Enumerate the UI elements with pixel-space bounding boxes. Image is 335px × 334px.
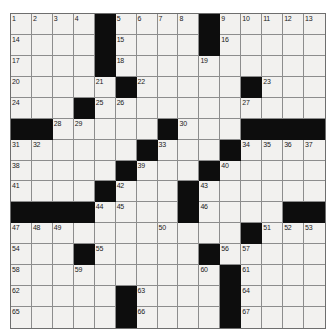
letter-cell[interactable] [95, 161, 116, 182]
letter-cell[interactable] [304, 98, 325, 119]
letter-cell[interactable] [158, 161, 179, 182]
letter-cell[interactable]: 45 [116, 202, 137, 223]
letter-cell[interactable] [262, 286, 283, 307]
letter-cell[interactable] [178, 307, 199, 328]
letter-cell[interactable] [262, 307, 283, 328]
letter-cell[interactable]: 52 [283, 223, 304, 244]
letter-cell[interactable] [53, 286, 74, 307]
letter-cell[interactable] [262, 181, 283, 202]
letter-cell[interactable] [74, 307, 95, 328]
letter-cell[interactable] [178, 98, 199, 119]
letter-cell[interactable]: 39 [137, 161, 158, 182]
letter-cell[interactable]: 60 [199, 265, 220, 286]
letter-cell[interactable] [178, 161, 199, 182]
letter-cell[interactable]: 8 [178, 14, 199, 35]
letter-cell[interactable]: 13 [304, 14, 325, 35]
letter-cell[interactable] [262, 161, 283, 182]
letter-cell[interactable]: 59 [74, 265, 95, 286]
letter-cell[interactable]: 19 [199, 56, 220, 77]
letter-cell[interactable] [53, 244, 74, 265]
letter-cell[interactable] [137, 35, 158, 56]
letter-cell[interactable]: 47 [11, 223, 32, 244]
letter-cell[interactable] [137, 56, 158, 77]
letter-cell[interactable] [158, 202, 179, 223]
letter-cell[interactable] [32, 161, 53, 182]
letter-cell[interactable] [178, 223, 199, 244]
letter-cell[interactable]: 61 [241, 265, 262, 286]
letter-cell[interactable] [304, 265, 325, 286]
letter-cell[interactable] [220, 98, 241, 119]
letter-cell[interactable] [241, 56, 262, 77]
letter-cell[interactable] [283, 77, 304, 98]
letter-cell[interactable] [220, 119, 241, 140]
letter-cell[interactable]: 11 [262, 14, 283, 35]
letter-cell[interactable] [74, 140, 95, 161]
letter-cell[interactable]: 54 [11, 244, 32, 265]
letter-cell[interactable]: 63 [137, 286, 158, 307]
letter-cell[interactable] [304, 181, 325, 202]
letter-cell[interactable] [53, 35, 74, 56]
letter-cell[interactable] [74, 56, 95, 77]
letter-cell[interactable] [283, 286, 304, 307]
letter-cell[interactable] [178, 77, 199, 98]
letter-cell[interactable]: 4 [74, 14, 95, 35]
letter-cell[interactable]: 46 [199, 202, 220, 223]
letter-cell[interactable] [178, 35, 199, 56]
letter-cell[interactable] [283, 56, 304, 77]
letter-cell[interactable] [53, 140, 74, 161]
letter-cell[interactable] [158, 181, 179, 202]
letter-cell[interactable] [158, 77, 179, 98]
letter-cell[interactable]: 33 [158, 140, 179, 161]
letter-cell[interactable] [74, 161, 95, 182]
letter-cell[interactable] [74, 35, 95, 56]
letter-cell[interactable] [199, 286, 220, 307]
letter-cell[interactable] [262, 56, 283, 77]
letter-cell[interactable] [137, 98, 158, 119]
letter-cell[interactable] [199, 223, 220, 244]
letter-cell[interactable]: 6 [137, 14, 158, 35]
letter-cell[interactable] [53, 161, 74, 182]
letter-cell[interactable] [137, 244, 158, 265]
letter-cell[interactable] [304, 56, 325, 77]
letter-cell[interactable] [32, 181, 53, 202]
letter-cell[interactable] [95, 286, 116, 307]
letter-cell[interactable]: 36 [283, 140, 304, 161]
letter-cell[interactable]: 42 [116, 181, 137, 202]
letter-cell[interactable]: 22 [137, 77, 158, 98]
letter-cell[interactable] [283, 35, 304, 56]
letter-cell[interactable]: 7 [158, 14, 179, 35]
letter-cell[interactable] [262, 35, 283, 56]
letter-cell[interactable] [137, 265, 158, 286]
letter-cell[interactable]: 58 [11, 265, 32, 286]
letter-cell[interactable] [304, 77, 325, 98]
letter-cell[interactable]: 5 [116, 14, 137, 35]
letter-cell[interactable] [220, 202, 241, 223]
letter-cell[interactable]: 38 [11, 161, 32, 182]
letter-cell[interactable] [137, 181, 158, 202]
letter-cell[interactable] [116, 265, 137, 286]
letter-cell[interactable]: 35 [262, 140, 283, 161]
letter-cell[interactable] [32, 35, 53, 56]
letter-cell[interactable] [178, 140, 199, 161]
letter-cell[interactable]: 24 [11, 98, 32, 119]
letter-cell[interactable]: 41 [11, 181, 32, 202]
letter-cell[interactable] [220, 56, 241, 77]
letter-cell[interactable] [178, 265, 199, 286]
letter-cell[interactable] [74, 77, 95, 98]
letter-cell[interactable] [283, 161, 304, 182]
letter-cell[interactable]: 9 [220, 14, 241, 35]
letter-cell[interactable]: 20 [11, 77, 32, 98]
letter-cell[interactable] [74, 223, 95, 244]
letter-cell[interactable] [283, 307, 304, 328]
letter-cell[interactable]: 18 [116, 56, 137, 77]
letter-cell[interactable] [262, 244, 283, 265]
letter-cell[interactable]: 25 [95, 98, 116, 119]
letter-cell[interactable] [95, 140, 116, 161]
letter-cell[interactable]: 64 [241, 286, 262, 307]
letter-cell[interactable] [32, 244, 53, 265]
letter-cell[interactable]: 44 [95, 202, 116, 223]
letter-cell[interactable] [95, 223, 116, 244]
letter-cell[interactable] [199, 77, 220, 98]
letter-cell[interactable] [32, 286, 53, 307]
letter-cell[interactable] [262, 265, 283, 286]
